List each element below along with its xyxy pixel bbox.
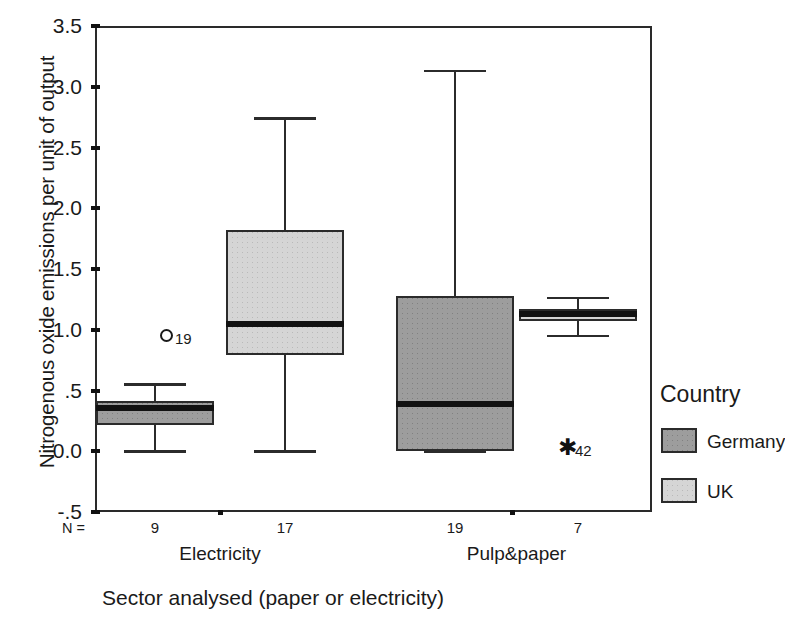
y-tick-label: 2.5	[30, 137, 82, 158]
legend-swatch-uk[interactable]	[661, 478, 697, 503]
box-iqr[interactable]	[519, 309, 637, 321]
box-iqr[interactable]	[396, 296, 514, 452]
box-iqr[interactable]	[96, 401, 214, 424]
extreme-value-marker[interactable]: ✱	[558, 436, 577, 459]
x-tick-mark	[218, 510, 223, 515]
y-tick-mark	[91, 146, 100, 150]
n-count-value: 9	[125, 519, 185, 536]
y-tick-mark	[91, 85, 100, 89]
y-tick-label: 3.0	[30, 76, 82, 97]
x-axis-title: Sector analysed (paper or electricity)	[102, 586, 444, 610]
y-tick-label: 2.0	[30, 197, 82, 218]
n-count-value: 19	[425, 519, 485, 536]
x-category-label: Pulp&paper	[407, 543, 627, 565]
y-tick-label: .5	[30, 380, 82, 401]
x-tick-mark	[510, 510, 515, 515]
x-category-label: Electricity	[110, 543, 330, 565]
y-tick-label: 1.5	[30, 258, 82, 279]
y-tick-label: 3.5	[30, 15, 82, 36]
y-tick-mark	[91, 510, 100, 514]
n-prefix-label: N =	[62, 520, 85, 536]
boxplot-figure: Nitrogenous oxide emissions per unit of …	[0, 0, 785, 629]
n-count-value: 17	[255, 519, 315, 536]
y-tick-mark	[91, 389, 100, 393]
box-iqr[interactable]	[226, 230, 344, 355]
y-tick-mark	[91, 449, 100, 453]
y-tick-label: 1.0	[30, 319, 82, 340]
legend-title: Country	[660, 381, 741, 408]
n-count-value: 7	[548, 519, 608, 536]
y-tick-label: -.5	[30, 501, 82, 522]
y-tick-mark	[91, 24, 100, 28]
y-tick-mark	[91, 206, 100, 210]
y-tick-mark	[91, 328, 100, 332]
legend-swatch-germany[interactable]	[661, 428, 697, 453]
y-tick-label: 0.0	[30, 440, 82, 461]
y-tick-mark	[91, 267, 100, 271]
legend-label-germany: Germany	[707, 431, 785, 453]
legend-label-uk: UK	[707, 481, 733, 503]
